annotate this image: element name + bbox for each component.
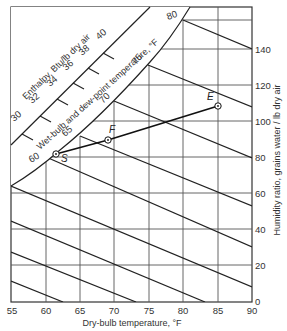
y-tick-100: 100 [255,116,271,127]
point-s-label: S [61,153,68,164]
y-tick-120: 120 [255,80,271,91]
y-tick-0: 0 [255,296,260,307]
x-tick-60: 60 [41,305,52,316]
y-tick-80: 80 [255,152,266,163]
x-axis-label: Dry-bulb temperature, °F [82,318,182,328]
y-tick-140: 140 [255,44,271,55]
y-tick-20: 20 [255,260,266,271]
y-tick-60: 60 [255,188,266,199]
x-tick-65: 65 [75,305,86,316]
x-tick-70: 70 [109,305,120,316]
psychrometric-chart: 30 32 34 36 38 40 Enthalpy, Btu/lb dry a… [0,0,287,331]
point-f-label: F [109,124,116,135]
x-tick-55: 55 [7,305,18,316]
y-tick-40: 40 [255,224,266,235]
x-tick-85: 85 [213,305,224,316]
y-axis-ticks: 0 20 40 60 80 100 120 140 [255,44,271,307]
x-tick-75: 75 [144,305,155,316]
point-e-label: E [207,91,214,102]
x-tick-80: 80 [178,305,189,316]
x-axis-ticks: 55 60 65 70 75 80 85 90 [7,305,258,316]
y-axis-label: Humidity ratio, grains water / lb dry ai… [272,84,282,235]
